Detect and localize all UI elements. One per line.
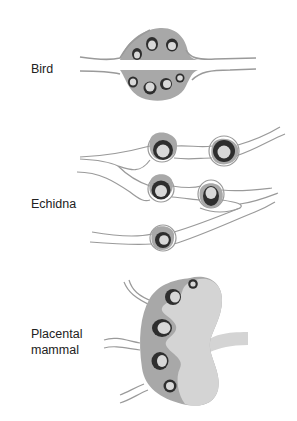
echidna-follicles <box>149 133 238 251</box>
follicle <box>132 48 142 60</box>
follicle <box>199 183 222 208</box>
follicle <box>151 226 174 250</box>
follicle <box>165 289 181 305</box>
follicle <box>211 139 238 165</box>
placental-ovary <box>104 277 248 406</box>
bird-upper-stroma <box>120 28 200 60</box>
follicle <box>164 380 177 393</box>
follicle <box>152 352 169 370</box>
bird-ovary <box>80 28 256 101</box>
ovary-comparison-diagram <box>0 0 297 421</box>
follicle <box>188 279 198 289</box>
follicle <box>149 174 173 199</box>
placental-hilum <box>208 332 248 352</box>
follicle <box>146 37 158 51</box>
follicle <box>166 39 178 52</box>
echidna-ovary <box>77 127 285 251</box>
follicle <box>144 82 157 95</box>
follicle <box>160 78 172 90</box>
follicle <box>152 319 172 337</box>
follicle <box>176 74 185 83</box>
follicle <box>128 77 138 88</box>
